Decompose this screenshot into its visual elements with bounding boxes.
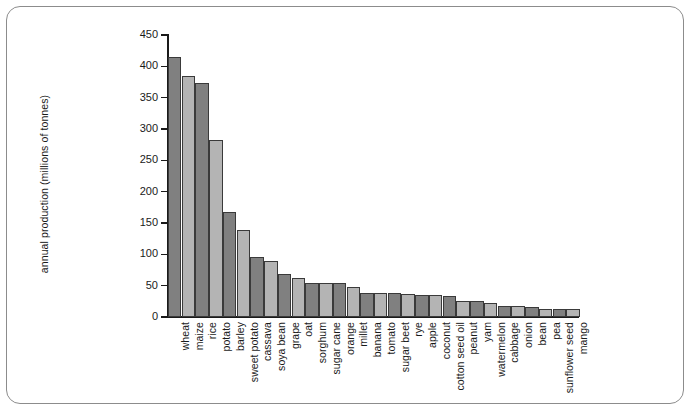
bar (264, 261, 277, 317)
y-tick-label: 200 (0, 184, 166, 196)
bar (553, 309, 566, 317)
x-tick-label: cotton seed oil (454, 322, 466, 390)
bar (470, 301, 483, 317)
y-tick-label: 150 (0, 216, 166, 228)
x-tick-label: peanut (467, 322, 479, 354)
x-tick-label: soya bean (275, 322, 287, 371)
bar (237, 230, 250, 317)
x-tick-label: wheat (179, 322, 191, 350)
bar (539, 309, 552, 317)
y-tick-label: 300 (0, 122, 166, 134)
bar (292, 278, 305, 317)
y-tick-label: 100 (0, 247, 166, 259)
bar (525, 307, 538, 317)
y-tick-label: 0 (0, 310, 166, 322)
x-tick-label: rye (412, 322, 424, 337)
x-tick-label: onion (522, 322, 534, 348)
bar (511, 306, 524, 317)
bar-chart: annual production (millions of tonnes) 0… (0, 0, 692, 412)
bar (209, 140, 222, 317)
x-tick-label: sugar cane (330, 322, 342, 374)
x-tick-label: grape (289, 322, 301, 349)
bar (182, 76, 195, 317)
x-tick-label: sweet potato (248, 322, 260, 382)
x-tick-label: millet (357, 322, 369, 347)
x-tick-label: oat (302, 322, 314, 337)
x-tick-label: sugar beet (399, 322, 411, 372)
x-tick-label: banana (371, 322, 383, 357)
bar (347, 287, 360, 317)
bar (388, 293, 401, 317)
x-tick-label: mango (577, 322, 589, 354)
y-tick-label: 50 (0, 278, 166, 290)
bar (443, 296, 456, 317)
bar (333, 283, 346, 317)
x-tick-label: watermelon (495, 322, 507, 377)
x-tick-label: bean (536, 322, 548, 346)
bar (223, 212, 236, 317)
y-tick-label: 400 (0, 59, 166, 71)
bar (415, 295, 428, 317)
x-tick-label: maize (193, 322, 205, 350)
bar (566, 309, 579, 317)
bar (401, 294, 414, 317)
y-tick-label: 450 (0, 28, 166, 40)
x-tick-label: sunflower seed (563, 322, 575, 393)
x-tick-label: orange (344, 322, 356, 355)
bar (484, 303, 497, 317)
x-tick-label: tomato (385, 322, 397, 354)
bar (250, 257, 263, 317)
plot-area (168, 35, 580, 317)
x-tick-label: cabbage (508, 322, 520, 363)
bar (305, 283, 318, 317)
x-tick-label: cassava (261, 322, 273, 361)
x-tick-label: barley (234, 322, 246, 351)
bar (168, 57, 181, 317)
bar (429, 295, 442, 317)
bar (456, 301, 469, 317)
bar (360, 293, 373, 317)
bar (374, 293, 387, 317)
x-tick-label: potato (220, 322, 232, 352)
bar (319, 283, 332, 317)
bar (498, 306, 511, 317)
y-tick-label: 250 (0, 153, 166, 165)
x-tick-label: yam (481, 322, 493, 342)
y-tick-label: 350 (0, 90, 166, 102)
x-tick-label: sorghum (316, 322, 328, 363)
x-tick-label: pea (550, 322, 562, 340)
bar (278, 274, 291, 317)
x-tick-label: apple (426, 322, 438, 348)
x-tick-label: rice (206, 322, 218, 339)
x-tick-label: coconut (440, 322, 452, 359)
bar (195, 83, 208, 317)
